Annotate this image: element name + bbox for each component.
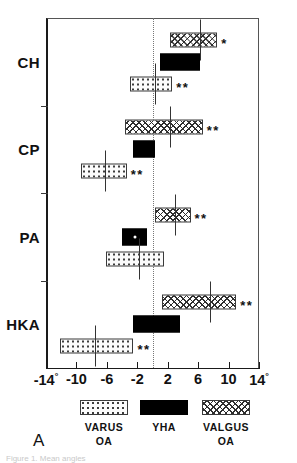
y-axis-tick bbox=[41, 106, 48, 107]
y-axis-label-pa: PA bbox=[19, 228, 40, 245]
y-axis-label-cp: CP bbox=[18, 141, 40, 158]
bar-yha-hka bbox=[133, 316, 180, 333]
legend-label-varus-line2: OA bbox=[68, 435, 140, 447]
x-axis-tick bbox=[259, 362, 260, 369]
significance-marker-valgus-ch: * bbox=[221, 36, 228, 49]
bar-marker-varus-ch bbox=[155, 63, 156, 104]
bar-marker-dot-pa bbox=[134, 235, 137, 238]
x-axis-label: -2 bbox=[131, 371, 144, 387]
legend-item-valgus: VALGUS OA bbox=[190, 400, 262, 447]
significance-marker-varus-ch: ** bbox=[176, 80, 189, 93]
bar-varus-ch bbox=[130, 76, 173, 91]
x-axis-label: 2 bbox=[164, 371, 172, 387]
significance-marker-varus-hka: ** bbox=[137, 343, 150, 356]
x-axis-label: -6 bbox=[100, 371, 113, 387]
bar-yha-ch bbox=[160, 53, 200, 70]
bar-yha-cp bbox=[133, 141, 154, 158]
x-axis-tick bbox=[137, 362, 138, 369]
legend-label-valgus-line1: VALGUS bbox=[190, 421, 262, 433]
y-axis-label-hka: HKA bbox=[6, 316, 40, 333]
legend-label-valgus-line2: OA bbox=[190, 435, 262, 447]
bar-varus-pa bbox=[106, 251, 164, 266]
x-axis-label: 6 bbox=[194, 371, 202, 387]
y-axis-tick bbox=[41, 193, 48, 194]
y-axis-tick bbox=[41, 281, 48, 282]
significance-marker-valgus-hka: ** bbox=[240, 299, 253, 312]
x-axis-tick bbox=[168, 362, 169, 369]
bar-valgus-cp bbox=[125, 120, 203, 135]
x-axis-tick bbox=[76, 362, 77, 369]
figure-caption: Figure 1. Mean angles bbox=[6, 454, 294, 463]
bar-marker-varus-hka bbox=[95, 326, 96, 367]
panel-letter: A bbox=[33, 431, 44, 451]
y-axis-label-ch: CH bbox=[18, 53, 40, 70]
bar-valgus-pa bbox=[155, 207, 191, 222]
x-axis-tick bbox=[229, 362, 230, 369]
bar-varus-hka bbox=[60, 339, 133, 354]
bar-marker-valgus-hka bbox=[210, 282, 211, 323]
x-axis-label: -14° bbox=[34, 371, 59, 388]
bar-marker-valgus-cp bbox=[170, 107, 171, 148]
bar-valgus-ch bbox=[170, 32, 217, 47]
chart-legend: VARUS OA YHA VALGUS OA bbox=[0, 396, 297, 454]
legend-swatch-yha-icon bbox=[140, 400, 188, 415]
x-axis-tick bbox=[198, 362, 199, 369]
bar-marker-varus-cp bbox=[105, 151, 106, 192]
x-axis-label: 10 bbox=[220, 371, 236, 387]
x-axis-label: -10 bbox=[66, 371, 87, 387]
significance-marker-valgus-pa: ** bbox=[195, 211, 208, 224]
legend-swatch-valgus-icon bbox=[202, 400, 250, 415]
legend-swatch-varus-icon bbox=[80, 400, 128, 415]
significance-marker-varus-cp: ** bbox=[131, 168, 144, 181]
significance-marker-valgus-cp: ** bbox=[207, 124, 220, 137]
x-axis-tick bbox=[46, 362, 47, 369]
x-axis-tick bbox=[107, 362, 108, 369]
bar-marker-valgus-ch bbox=[200, 19, 201, 60]
bar-marker-varus-pa bbox=[139, 238, 140, 279]
bar-valgus-hka bbox=[162, 295, 236, 310]
x-axis-line bbox=[46, 368, 259, 369]
bar-marker-valgus-pa bbox=[175, 194, 176, 235]
x-axis-label: 14° bbox=[249, 371, 269, 388]
